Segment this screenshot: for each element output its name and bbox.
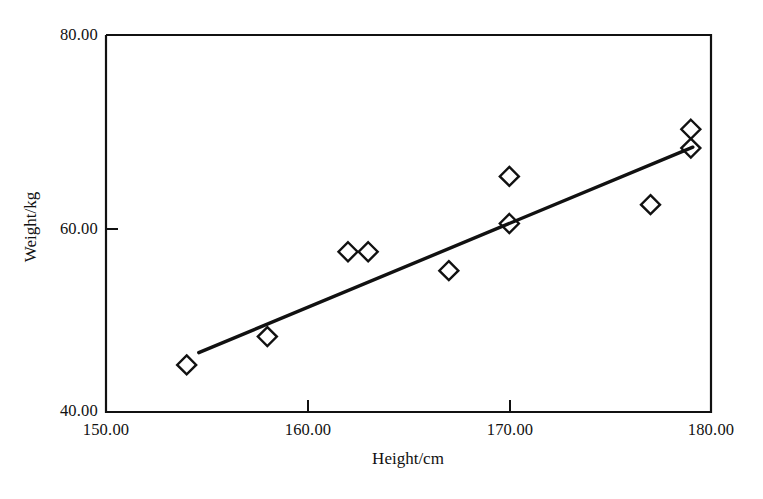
data-point-marker [359, 242, 378, 261]
y-tick-label-60: 60.00 [32, 219, 98, 239]
data-point-marker [258, 327, 277, 346]
x-tick-label-170: 170.00 [470, 420, 550, 440]
plot-frame [106, 35, 711, 412]
x-tick-label-150: 150.00 [66, 420, 146, 440]
data-point-marker [339, 242, 358, 261]
data-point-marker [681, 120, 700, 139]
x-tick-label-180: 180.00 [671, 420, 751, 440]
data-point-marker [500, 167, 519, 186]
data-point-markers [177, 120, 700, 375]
x-axis-ticks [308, 400, 510, 412]
y-axis-label: Weight/kg [21, 177, 41, 277]
data-point-marker [439, 261, 458, 280]
trend-line [199, 147, 693, 352]
data-point-marker [641, 195, 660, 214]
x-axis-label: Height/cm [308, 449, 508, 469]
data-point-marker [177, 355, 196, 374]
scatter-plot-figure: 80.00 60.00 40.00 150.00 160.00 170.00 1… [0, 0, 763, 499]
y-tick-label-80: 80.00 [32, 25, 98, 45]
x-tick-label-160: 160.00 [268, 420, 348, 440]
y-tick-label-40: 40.00 [32, 401, 98, 421]
